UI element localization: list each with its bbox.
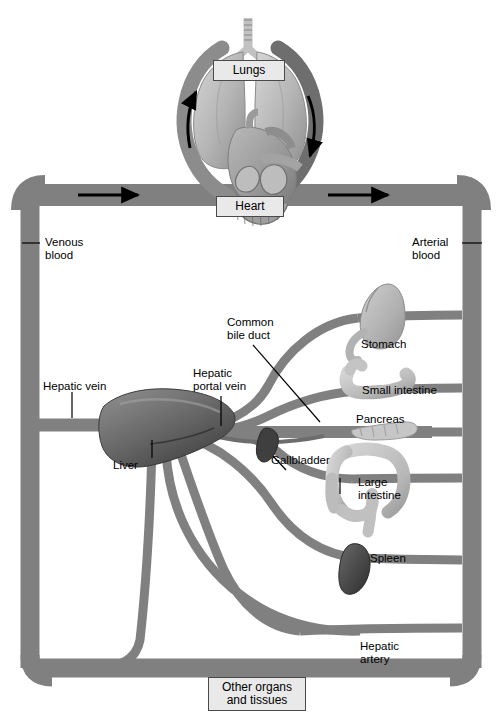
small-intestine-label: Small intestine	[362, 384, 437, 397]
arterial-blood-label: Arterial blood	[412, 236, 448, 262]
stomach-label: Stomach	[361, 338, 406, 351]
other-organs-label: Other organs and tissues	[208, 677, 306, 711]
hepatic-artery-label: Hepatic artery	[360, 640, 399, 666]
pancreas-label: Pancreas	[356, 413, 405, 426]
gallbladder-label: Gallbladder	[271, 454, 330, 467]
diagram-canvas: Lungs Heart Other organs and tissues Ven…	[0, 0, 502, 719]
hepatic-vein-label: Hepatic vein	[43, 380, 106, 393]
hepatic-portal-vein-label: Hepatic portal vein	[193, 367, 246, 393]
lungs-label: Lungs	[213, 60, 285, 81]
liver-label: Liver	[113, 459, 138, 472]
common-bile-duct-label: Common bile duct	[227, 316, 274, 342]
hepatic-portal-circulation-svg	[0, 0, 502, 719]
spleen-label: Spleen	[370, 552, 406, 565]
large-intestine-label: Large intestine	[358, 476, 401, 502]
leader-lines	[22, 243, 482, 494]
venous-blood-label: Venous blood	[45, 236, 83, 262]
heart-label: Heart	[216, 196, 284, 217]
liver-illustration	[99, 389, 235, 467]
spleen-illustration	[339, 544, 370, 595]
